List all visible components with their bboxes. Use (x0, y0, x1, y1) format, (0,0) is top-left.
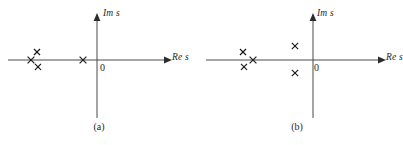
real-axis-arrowhead-icon (378, 57, 386, 64)
pole-plot-panel-b: Im s Re s 0 (b) (198, 0, 396, 145)
imaginary-axis-arrowhead-icon (94, 13, 101, 21)
s-plane-axes-a (0, 0, 198, 120)
pole-markers-group-a (28, 49, 87, 70)
imaginary-axis-label: Im s (103, 8, 120, 18)
pole-marker-x (292, 43, 298, 49)
panel-caption-a: (a) (0, 121, 198, 132)
pole-marker-x (34, 49, 40, 55)
pole-plot-panel-a: Im s Re s 0 (a) (0, 0, 198, 145)
plot-area-b: Im s Re s 0 (198, 0, 396, 120)
imaginary-axis-label: Im s (317, 8, 334, 18)
origin-label: 0 (314, 62, 319, 73)
real-axis-label: Re s (386, 52, 403, 62)
origin-label: 0 (100, 62, 105, 73)
pole-marker-x (240, 49, 246, 55)
pole-marker-x (292, 70, 298, 76)
plot-area-a: Im s Re s 0 (0, 0, 198, 120)
real-axis-arrowhead-icon (164, 57, 172, 64)
imaginary-axis-arrowhead-icon (310, 13, 317, 21)
real-axis-label: Re s (172, 52, 189, 62)
pole-marker-x (241, 64, 247, 70)
pole-marker-x (35, 64, 41, 70)
s-plane-axes-b (198, 0, 396, 120)
panel-caption-b: (b) (198, 121, 396, 132)
